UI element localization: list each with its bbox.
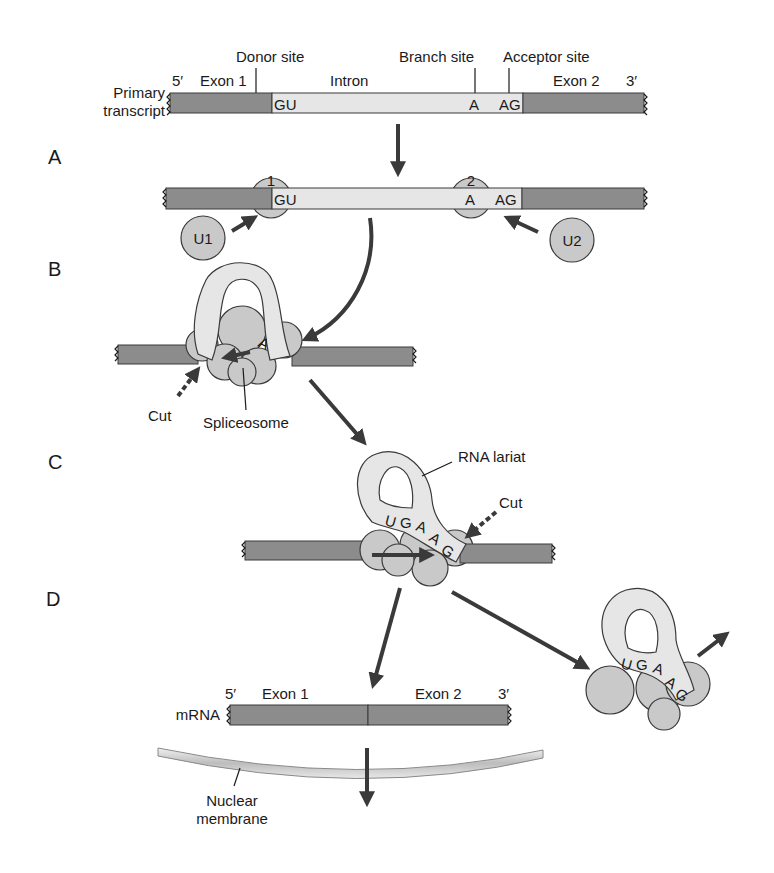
exon1-segment (170, 93, 272, 113)
mrna-label: mRNA (176, 706, 220, 723)
release-arrow-icon (698, 636, 724, 656)
step-c: U G A A G RNA lariat Cut (242, 448, 555, 586)
exon1-segment (230, 705, 368, 725)
intron-label: Intron (330, 72, 368, 89)
curved-arrow-icon (308, 218, 371, 338)
step-label-c: C (48, 451, 62, 473)
base-g: G (636, 656, 648, 673)
cut-label: Cut (499, 494, 523, 511)
step-d-mrna: 5′ Exon 1 Exon 2 3′ mRNA (176, 685, 511, 725)
arrow-icon (374, 588, 400, 682)
three-prime-label: 3′ (498, 685, 509, 702)
acceptor-site-label: Acceptor site (503, 48, 590, 65)
exon1-label: Exon 1 (200, 72, 247, 89)
spliceosome-label: Spliceosome (203, 414, 289, 431)
step-b: A Cut Spliceosome (115, 263, 416, 431)
arrow-icon (452, 592, 584, 666)
primary-transcript: Primary transcript 5′ Exon 1 Intron Exon… (103, 48, 647, 119)
snrnp2-number: 2 (467, 172, 475, 189)
exon2-label: Exon 2 (553, 72, 600, 89)
cut-label: Cut (148, 407, 172, 424)
branch-a-label: A (465, 191, 475, 208)
membrane-label: membrane (196, 810, 268, 827)
gu-label: GU (274, 96, 297, 113)
u2-label: U2 (562, 232, 581, 249)
donor-site-label: Donor site (236, 48, 304, 65)
snrnp1-number: 1 (267, 172, 275, 189)
u1-label: U1 (193, 230, 212, 247)
released-lariat: U G A A G (586, 588, 724, 730)
step-label-b: B (48, 258, 61, 280)
step-a: 1 2 GU A AG U1 U2 (163, 172, 647, 262)
arrow-icon (310, 380, 362, 440)
primary-label: Primary (113, 84, 165, 101)
ag-label: AG (495, 191, 517, 208)
exon2-segment (523, 93, 644, 113)
ag-label: AG (499, 96, 521, 113)
branch-site-label: Branch site (399, 48, 474, 65)
intron-segment (272, 93, 523, 113)
base-g: G (400, 514, 412, 531)
exon2-segment (368, 705, 508, 725)
five-prime-label: 5′ (225, 685, 236, 702)
cut-arrow-icon (178, 372, 196, 396)
gu-label: GU (274, 191, 297, 208)
nuclear-label: Nuclear (206, 792, 258, 809)
branch-a-label: A (469, 96, 479, 113)
three-prime-label: 3′ (626, 72, 637, 89)
exon1-label: Exon 1 (262, 685, 309, 702)
five-prime-label: 5′ (172, 72, 183, 89)
rna-lariat-label: RNA lariat (458, 448, 526, 465)
nuclear-membrane: Nuclear membrane (158, 748, 543, 827)
cut-arrow-icon (470, 512, 496, 534)
step-label-d: D (46, 588, 60, 610)
splicing-diagram: A B C D Primary transcript 5′ Exon 1 Int… (0, 0, 774, 873)
transcript-label: transcript (103, 102, 166, 119)
step-label-a: A (48, 146, 62, 168)
exon2-label: Exon 2 (415, 685, 462, 702)
